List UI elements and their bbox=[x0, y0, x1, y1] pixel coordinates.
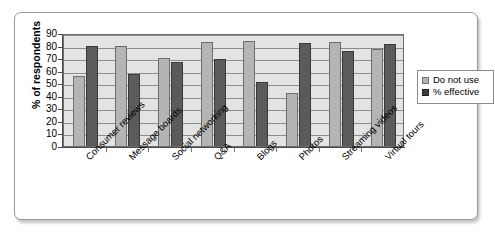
y-axis-tick-label: 10 bbox=[33, 129, 57, 139]
y-axis-tick-label: 80 bbox=[33, 42, 57, 52]
x-axis-tick bbox=[319, 148, 320, 152]
y-axis-tick-label: 40 bbox=[33, 92, 57, 102]
y-axis-tick bbox=[58, 109, 62, 110]
legend-label: % effective bbox=[433, 87, 479, 97]
x-axis-tick bbox=[191, 148, 192, 152]
x-axis-tick bbox=[276, 148, 277, 152]
bar bbox=[286, 93, 298, 146]
legend-item: % effective bbox=[422, 87, 489, 97]
legend-item: Do not use bbox=[422, 75, 489, 85]
bar bbox=[299, 43, 311, 146]
y-axis-tick bbox=[58, 134, 62, 135]
bar bbox=[384, 44, 396, 146]
gridline bbox=[64, 35, 403, 36]
bar bbox=[256, 82, 268, 146]
y-axis-tick bbox=[58, 59, 62, 60]
chart-frame: % of respondents 0102030405060708090 Con… bbox=[14, 12, 478, 220]
bar bbox=[243, 41, 255, 146]
y-axis-tick bbox=[58, 47, 62, 48]
y-axis-tick bbox=[58, 147, 62, 148]
y-axis-tick-label: 30 bbox=[33, 104, 57, 114]
legend-swatch-icon bbox=[422, 77, 429, 84]
y-axis-tick bbox=[58, 122, 62, 123]
y-axis-tick-label: 20 bbox=[33, 117, 57, 127]
bar bbox=[342, 51, 354, 146]
x-axis-tick bbox=[106, 148, 107, 152]
y-axis-tick-label: 60 bbox=[33, 67, 57, 77]
y-axis-tick-label: 0 bbox=[33, 142, 57, 152]
y-axis-tick-label: 50 bbox=[33, 79, 57, 89]
x-axis-tick bbox=[361, 148, 362, 152]
legend-swatch-icon bbox=[422, 89, 429, 96]
x-axis-tick bbox=[234, 148, 235, 152]
bar bbox=[73, 76, 85, 146]
legend-label: Do not use bbox=[433, 75, 479, 85]
bar bbox=[329, 42, 341, 146]
bar bbox=[86, 46, 98, 146]
y-axis-tick bbox=[58, 84, 62, 85]
x-axis-tick bbox=[148, 148, 149, 152]
bar bbox=[171, 62, 183, 146]
y-axis-tick-labels: 0102030405060708090 bbox=[29, 13, 57, 241]
y-axis-tick bbox=[58, 97, 62, 98]
y-axis-tick-label: 90 bbox=[33, 29, 57, 39]
chart-figure: % of respondents 0102030405060708090 Con… bbox=[0, 0, 495, 241]
y-axis-tick-label: 70 bbox=[33, 54, 57, 64]
y-axis-tick bbox=[58, 72, 62, 73]
chart-legend: Do not use% effective bbox=[417, 70, 494, 104]
y-axis-tick bbox=[58, 34, 62, 35]
